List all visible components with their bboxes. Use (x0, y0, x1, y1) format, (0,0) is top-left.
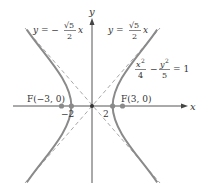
y-axis-arrow-icon (90, 18, 95, 25)
x-axis-arrow-icon (181, 104, 188, 109)
svg-text:2: 2 (141, 57, 145, 64)
vertex-right-label: 2 (103, 109, 109, 119)
asymptote-right-label: y = √5 2 x (107, 21, 148, 41)
focus-right-point (120, 103, 125, 108)
focus-left-point (59, 103, 64, 108)
focus-left-label: F(−3, 0) (27, 94, 65, 104)
svg-text:√5: √5 (129, 21, 139, 30)
svg-text:2: 2 (132, 32, 137, 41)
svg-text:2: 2 (67, 32, 72, 41)
hyperbola-diagram: y x −2 2 F(−3, 0) F(3, 0) y = − √5 2 x y… (0, 0, 204, 191)
svg-text:= 1: = 1 (173, 64, 189, 74)
vertex-left-point (69, 103, 74, 108)
svg-text:y =: y = (107, 25, 124, 35)
svg-text:x: x (143, 25, 148, 35)
y-axis-label: y (88, 6, 95, 17)
svg-text:4: 4 (138, 71, 143, 80)
svg-text:−: − (150, 64, 158, 74)
x-axis-label: x (190, 101, 196, 112)
hyperbola-equation-label: x 2 4 − y 2 5 = 1 (135, 57, 189, 80)
svg-text:x: x (78, 25, 83, 35)
asymptote-left-label: y = − √5 2 x (32, 21, 83, 41)
focus-right-label: F(3, 0) (121, 94, 151, 104)
svg-text:5: 5 (162, 71, 167, 80)
svg-text:2: 2 (165, 57, 169, 64)
origin-point (90, 104, 94, 108)
svg-text:y = −: y = − (32, 25, 59, 35)
vertex-left-label: −2 (61, 109, 74, 119)
vertex-right-point (110, 103, 115, 108)
svg-text:√5: √5 (64, 21, 74, 30)
